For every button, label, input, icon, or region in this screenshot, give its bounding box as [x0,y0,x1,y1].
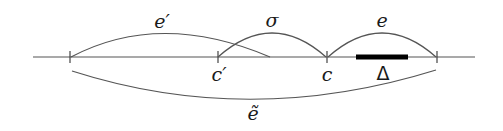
label-sigma: σ [266,9,280,31]
arc-e-prime [71,34,270,58]
interval-diagram: e′ σ e c′ c Δ ẽ [0,0,503,131]
label-c-prime: c′ [212,63,228,85]
label-e-tilde: ẽ [247,102,258,124]
label-delta: Δ [377,62,390,84]
label-e-prime: e′ [154,10,170,32]
label-e: e [376,9,387,31]
label-c: c [322,63,333,85]
arc-sigma [218,33,326,57]
arc-e [328,33,436,57]
